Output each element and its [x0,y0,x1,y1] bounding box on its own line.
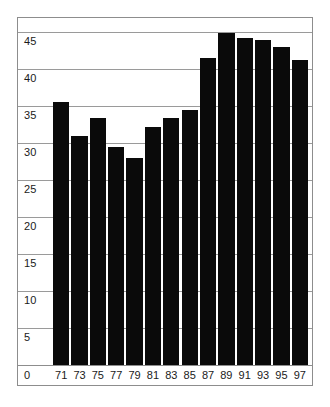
x-tick-label-77: 77 [107,369,125,382]
bar-91 [237,38,253,365]
x-axis-tick-labels: 7173757779818385878991939597 [52,366,309,385]
plot-area: 51015202530354045 [18,18,312,365]
bar-73 [71,136,87,365]
bar-slot [70,18,88,365]
x-tick-label-97: 97 [291,369,309,382]
bar-83 [163,118,179,365]
y-tick-label-30: 30 [24,146,37,158]
bar-97 [292,60,308,365]
bar-chart-figure: 51015202530354045 0 71737577798183858789… [17,17,313,386]
bar-81 [145,127,161,365]
bar-77 [108,147,124,365]
bar-slot [52,18,70,365]
bar-85 [182,110,198,365]
y-tick-label-45: 45 [24,35,37,47]
bar-71 [53,102,69,365]
bar-87 [200,58,216,365]
bar-slot [236,18,254,365]
bar-slot [181,18,199,365]
bar-75 [90,118,106,365]
bar-slot [125,18,143,365]
bar-slot [144,18,162,365]
y-tick-label-40: 40 [24,72,37,84]
y-tick-label-25: 25 [24,183,37,195]
x-tick-label-87: 87 [199,369,217,382]
bar-79 [126,158,142,365]
bar-slot [217,18,235,365]
x-axis-strip: 0 7173757779818385878991939597 [18,365,312,385]
x-tick-label-75: 75 [89,369,107,382]
x-tick-label-95: 95 [272,369,290,382]
x-tick-label-83: 83 [162,369,180,382]
y-tick-label-5: 5 [24,331,30,343]
bar-slot [254,18,272,365]
x-tick-label-93: 93 [254,369,272,382]
y-tick-label-10: 10 [24,294,37,306]
y-tick-label-35: 35 [24,109,37,121]
x-tick-label-73: 73 [70,369,88,382]
x-tick-label-81: 81 [144,369,162,382]
bar-slot [162,18,180,365]
bar-95 [273,47,289,365]
bar-slot [89,18,107,365]
bar-slot [272,18,290,365]
bar-89 [218,33,234,365]
y-tick-label-15: 15 [24,257,37,269]
bar-slot [291,18,309,365]
y-axis-origin-label: 0 [24,369,30,382]
y-tick-label-20: 20 [24,220,37,232]
x-tick-label-71: 71 [52,369,70,382]
x-tick-label-85: 85 [181,369,199,382]
x-tick-label-79: 79 [125,369,143,382]
bar-slot [199,18,217,365]
x-tick-label-89: 89 [217,369,235,382]
x-tick-label-91: 91 [236,369,254,382]
bar-93 [255,40,271,365]
bars-group [52,18,309,365]
bar-slot [107,18,125,365]
